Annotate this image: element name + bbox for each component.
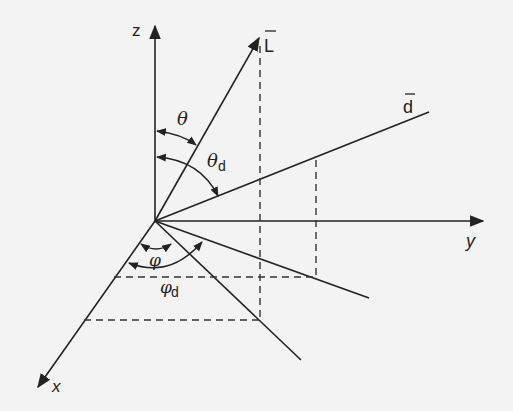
theta-label: θ [177,108,188,129]
svg-text:d: d [403,97,413,117]
vector-L-label: L [264,31,276,56]
phi-d-label: φ d [160,277,179,300]
projection-d [155,221,369,298]
svg-text:L: L [264,36,274,56]
theta-arc [157,131,196,145]
phi-arc [141,244,171,249]
y-axis-label: y [464,231,476,251]
phi-label: φ [149,250,161,270]
vector-L [155,38,259,221]
x-axis [38,221,155,387]
svg-text:d: d [171,284,179,300]
svg-text:θ: θ [207,150,218,171]
x-axis-label: x [51,377,61,396]
diagram-canvas: z y x L d θ θ d φ φ d [0,0,513,411]
vector-d [155,112,429,221]
svg-text:d: d [218,158,226,174]
coordinate-diagram: z y x L d θ θ d φ φ d [0,0,513,411]
z-axis-label: z [132,21,141,40]
vector-d-label: d [403,94,415,117]
theta-d-label: θ d [207,150,226,174]
